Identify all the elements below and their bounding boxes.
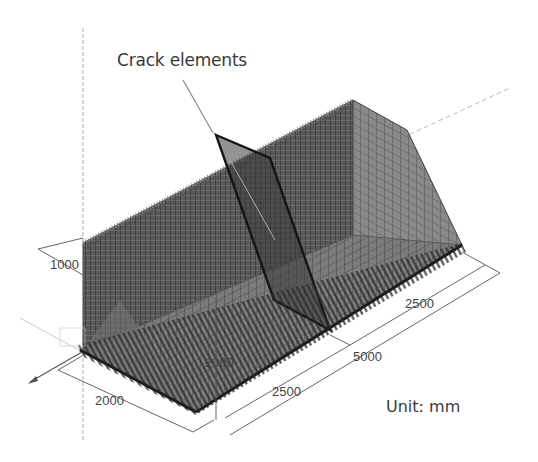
dim-half-length-front-2500: 2500 bbox=[272, 384, 301, 399]
unit-label: Unit: mm bbox=[386, 397, 460, 416]
origin-axis-arrow-icon bbox=[28, 328, 85, 384]
dim-total-length-5000: 5000 bbox=[353, 349, 382, 364]
crack-elements-callout: Crack elements bbox=[117, 50, 247, 70]
dim-half-length-back-2500: 2500 bbox=[405, 296, 434, 311]
dim-height-2000: 2000 bbox=[205, 355, 234, 370]
dim-base-width-2000: 2000 bbox=[95, 393, 124, 408]
fe-model-diagram bbox=[0, 0, 538, 462]
callout-leader bbox=[183, 80, 213, 133]
dim-thickness-1000: 1000 bbox=[50, 257, 79, 272]
